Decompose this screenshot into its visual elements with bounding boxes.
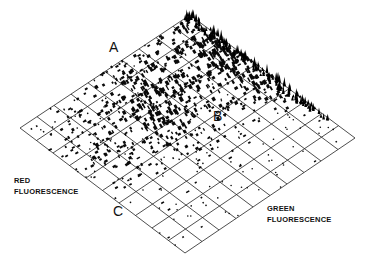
y-axis-label-line1: RED	[14, 175, 79, 186]
x-axis-label-line1: GREEN	[267, 203, 332, 214]
x-axis-label-line2: FLUORESCENCE	[267, 214, 332, 225]
annotation-c: C	[113, 204, 123, 218]
annotation-a: A	[109, 40, 118, 54]
annotation-b: B	[213, 109, 222, 123]
y-axis-label: RED FLUORESCENCE	[14, 175, 79, 197]
ridge-a	[184, 9, 329, 121]
x-axis-label: GREEN FLUORESCENCE	[267, 203, 332, 225]
y-axis-label-line2: FLUORESCENCE	[14, 186, 79, 197]
